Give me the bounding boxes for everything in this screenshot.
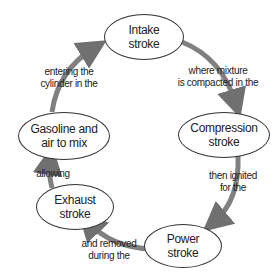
edge-label-line: allowing: [28, 168, 78, 180]
edge-label-line: then ignited: [198, 170, 268, 182]
node-intake-stroke: Intakestroke: [104, 14, 184, 60]
edge-label-line: entering the: [32, 66, 106, 78]
node-label-line: stroke: [167, 246, 200, 260]
edge-label-line: where mixture: [170, 65, 266, 77]
edge-label-gasoline-intake: entering thecylinder in the: [32, 66, 106, 90]
node-compression-stroke: Compressionstroke: [178, 112, 270, 158]
node-power-stroke: Powerstroke: [144, 224, 222, 268]
node-gasoline-air-mix: Gasoline andair to mix: [18, 112, 110, 160]
edge-label-line: and removed: [74, 238, 144, 250]
node-label-line: Intake: [129, 23, 160, 37]
edge-label-line: for the: [198, 182, 268, 194]
node-label-line: Exhaust: [54, 193, 95, 207]
edge-label-compression-power: then ignitedfor the: [198, 170, 268, 194]
node-label-line: air to mix: [30, 136, 97, 150]
node-label-line: stroke: [190, 135, 257, 149]
node-exhaust-stroke: Exhauststroke: [36, 184, 114, 230]
edge-label-intake-compression: where mixtureis compacted in the: [170, 65, 266, 89]
node-label-line: stroke: [129, 37, 160, 51]
edge-label-line: is compacted in the: [170, 77, 266, 89]
edge-label-exhaust-gasoline: allowing: [28, 168, 78, 180]
node-label-line: stroke: [54, 207, 95, 221]
node-label-line: Power: [167, 232, 200, 246]
edge-label-line: during the: [74, 250, 144, 262]
node-label-line: Gasoline and: [30, 122, 97, 136]
edge-label-power-exhaust: and removedduring the: [74, 238, 144, 262]
edge-label-line: cylinder in the: [32, 78, 106, 90]
node-label-line: Compression: [190, 121, 257, 135]
